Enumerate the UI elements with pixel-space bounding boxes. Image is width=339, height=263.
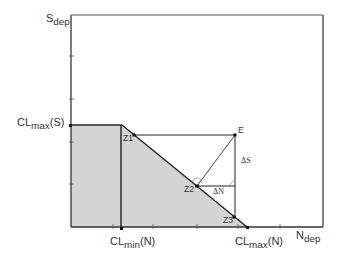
point-z2 bbox=[195, 185, 199, 188]
point-e bbox=[234, 134, 237, 137]
x-axis-label-sub: dep bbox=[304, 233, 320, 244]
cl-max-n-marker bbox=[246, 226, 249, 229]
right-angle-arc-delta bbox=[230, 181, 235, 186]
cl-max-s-suffix: (S) bbox=[50, 116, 65, 128]
y-axis-label-sub: dep bbox=[53, 16, 69, 27]
e-label: E bbox=[238, 126, 244, 135]
cl-min-n-marker bbox=[120, 227, 123, 230]
cl-min-n-label: CLmin(N) bbox=[110, 236, 155, 250]
z3-label: Z3 bbox=[223, 216, 233, 225]
cl-max-n-suffix: (N) bbox=[268, 235, 283, 247]
cl-max-n-label: CLmax(N) bbox=[235, 236, 283, 250]
cl-min-n-main: CL bbox=[110, 235, 124, 247]
critical-load-region bbox=[71, 125, 247, 227]
cl-max-s-main: CL bbox=[17, 116, 31, 128]
z1-label: Z1 bbox=[123, 134, 133, 143]
cl-max-n-sub: max bbox=[249, 239, 268, 250]
cl-max-s-sub: max bbox=[31, 120, 50, 131]
x-axis-label-main: N bbox=[296, 229, 304, 241]
cl-max-s-label: CLmax(S) bbox=[17, 117, 64, 131]
cl-min-n-sub: min bbox=[124, 239, 140, 250]
delta-n-label: ΔN bbox=[213, 188, 224, 196]
y-axis-label: Sdep bbox=[46, 13, 70, 27]
right-angle-arc-z2 bbox=[192, 178, 202, 183]
cl-max-n-main: CL bbox=[235, 235, 249, 247]
critical-load-function-diagram bbox=[0, 0, 339, 263]
x-axis-label: Ndep bbox=[296, 230, 320, 244]
z2-label: Z2 bbox=[184, 185, 194, 194]
cl-max-s-marker bbox=[69, 124, 72, 127]
e-to-z2-line bbox=[197, 135, 235, 186]
cl-min-n-suffix: (N) bbox=[140, 235, 155, 247]
delta-s-label: ΔS bbox=[241, 157, 251, 165]
